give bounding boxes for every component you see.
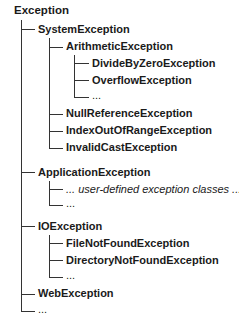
- node-indexoutofrange-exception: IndexOutOfRangeException: [66, 124, 212, 136]
- connector: [49, 131, 63, 132]
- node-filenotfound-exception: FileNotFoundException: [66, 237, 189, 249]
- node-system-exception: SystemException: [38, 23, 130, 35]
- node-root-more: ...: [38, 303, 47, 315]
- branch-line-io: [49, 235, 50, 277]
- branch-line-arithmetic: [74, 55, 75, 97]
- node-exception: Exception: [14, 4, 69, 16]
- node-application-more: ...: [66, 197, 75, 209]
- connector: [49, 114, 63, 115]
- node-arithmetic-more: ...: [92, 89, 101, 101]
- connector: [49, 189, 63, 190]
- node-io-exception: IOException: [38, 220, 102, 232]
- node-io-more: ...: [66, 269, 75, 281]
- node-web-exception: WebException: [38, 287, 114, 299]
- connector: [49, 243, 63, 244]
- connector: [21, 226, 35, 227]
- connector: [74, 63, 89, 64]
- node-application-exception: ApplicationException: [38, 166, 150, 178]
- connector: [21, 294, 35, 295]
- connector: [49, 148, 63, 149]
- node-invalidcast-exception: InvalidCastException: [66, 141, 177, 153]
- connector: [49, 277, 63, 278]
- node-user-defined: ... user-defined exception classes ...: [66, 183, 239, 195]
- node-directorynotfound-exception: DirectoryNotFoundException: [66, 254, 219, 266]
- branch-line-application: [49, 181, 50, 205]
- connector: [49, 47, 63, 48]
- node-dividebyzero-exception: DivideByZeroException: [92, 57, 215, 69]
- connector: [21, 311, 35, 312]
- connector: [21, 29, 35, 30]
- node-nullreference-exception: NullReferenceException: [66, 107, 193, 119]
- connector: [74, 80, 89, 81]
- node-arithmetic-exception: ArithmeticException: [66, 40, 173, 52]
- connector: [21, 172, 35, 173]
- connector: [74, 97, 89, 98]
- node-overflow-exception: OverflowException: [92, 74, 192, 86]
- connector: [49, 260, 63, 261]
- trunk-line: [21, 20, 22, 312]
- connector: [49, 205, 63, 206]
